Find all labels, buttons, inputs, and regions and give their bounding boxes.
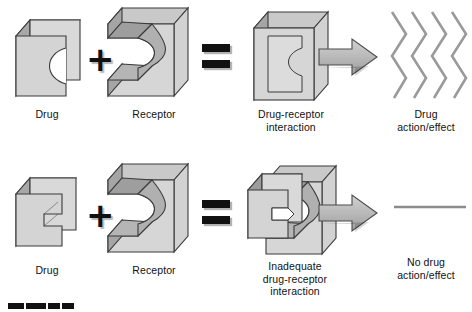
receptor-block-bottom <box>104 162 198 258</box>
label-effect-top: Drug action/effect <box>380 108 472 133</box>
flat-line-no-effect <box>392 202 468 212</box>
label-receptor-top: Receptor <box>104 108 204 121</box>
segmented-scale-bar <box>8 303 74 309</box>
label-drug-bottom: Drug <box>4 264 90 277</box>
drug-block-round-notch <box>14 14 86 100</box>
cell-effect-top: Drug action/effect <box>380 0 472 156</box>
arrow-right-icon-top <box>314 36 382 80</box>
arrow-right-icon-bottom <box>314 192 382 236</box>
drug-receptor-figure: Drug + Receptor <box>0 0 472 312</box>
drug-block-angular-notch <box>14 174 86 254</box>
label-receptor-bottom: Receptor <box>104 264 204 277</box>
row-inadequate-fit: Drug + Receptor <box>0 156 472 312</box>
cell-equals-top <box>196 0 238 156</box>
label-effect-bottom: No drug action/effect <box>380 256 472 281</box>
cell-arrow-bottom <box>308 156 384 312</box>
cell-drug-bottom: Drug <box>4 156 90 312</box>
receptor-block-top <box>104 6 198 102</box>
cell-receptor-bottom: Receptor <box>104 156 204 312</box>
row-adequate-fit: Drug + Receptor <box>0 0 472 156</box>
label-drug-top: Drug <box>4 108 90 121</box>
cell-drug-top: Drug <box>4 0 90 156</box>
cell-effect-bottom: No drug action/effect <box>380 156 472 312</box>
zigzag-effect-lines <box>386 8 470 102</box>
cell-equals-bottom <box>196 156 238 312</box>
cell-arrow-top <box>308 0 384 156</box>
cell-receptor-top: Receptor <box>104 0 204 156</box>
